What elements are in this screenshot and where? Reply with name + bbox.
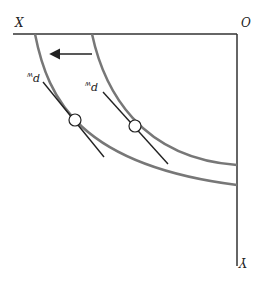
axis-label-x: X: [14, 16, 24, 30]
diagram-canvas: X O Y pw pw: [0, 0, 258, 281]
tangent-label-left: pw: [27, 71, 40, 86]
inner-curve: [92, 34, 237, 165]
axis-label-y: Y: [238, 255, 247, 269]
tangency-point-left: [69, 114, 81, 126]
tangency-point-right: [129, 120, 141, 132]
tangent-label-right: pw: [85, 80, 98, 95]
axis-label-origin: O: [241, 16, 251, 30]
